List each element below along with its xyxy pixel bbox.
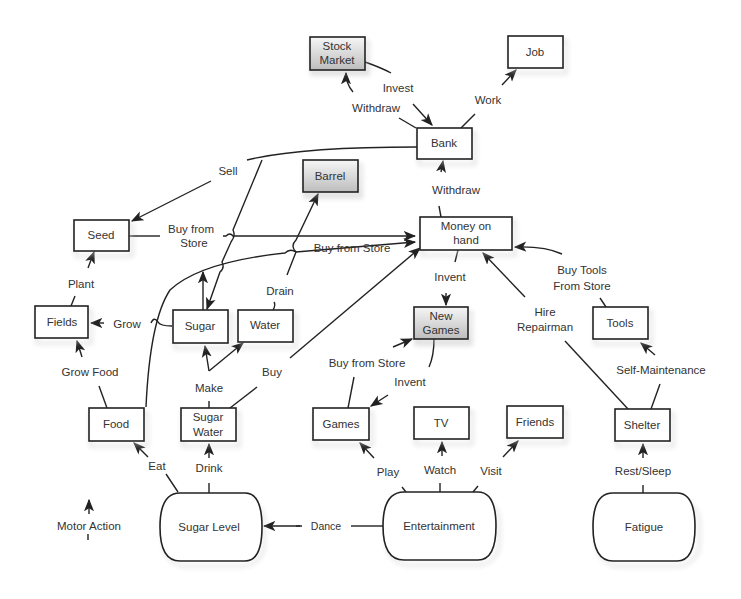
- node-barrel: Barrel: [303, 160, 361, 197]
- label-rest-sleep: Rest/Sleep: [615, 465, 671, 477]
- node-stock-market: Stock Market: [310, 37, 368, 74]
- label-dance: Dance: [311, 520, 342, 532]
- node-label: Fatigue: [625, 521, 663, 533]
- node-label: hand: [453, 234, 479, 246]
- node-label: Stock: [323, 40, 352, 52]
- node-water: Water: [238, 310, 296, 347]
- label-buy-from-store-mid: Buy from Store: [314, 242, 391, 254]
- node-fields: Fields: [35, 306, 91, 343]
- edge-sell-head: [132, 181, 211, 221]
- node-job: Job: [508, 36, 566, 73]
- node-label: Shelter: [624, 419, 661, 431]
- edge-buytools-head: [515, 247, 562, 254]
- node-shelter: Shelter: [615, 409, 673, 446]
- edge-drain: [287, 194, 318, 275]
- node-label: TV: [434, 417, 449, 429]
- edge-drain-tail: [273, 302, 275, 310]
- label-eat: Eat: [148, 460, 166, 472]
- edge-grow-tail: [151, 319, 172, 326]
- label-invent-games: Invent: [394, 376, 426, 388]
- node-entertainment: Entertainment: [383, 492, 499, 565]
- edge-work-tail: [461, 114, 475, 128]
- edge-invest: [413, 104, 432, 125]
- edge-make-sugar: [205, 346, 209, 371]
- node-label: Seed: [88, 229, 115, 241]
- label-work: Work: [475, 94, 502, 106]
- label-grow: Grow: [113, 318, 141, 330]
- node-label: Food: [103, 418, 129, 430]
- node-games: Games: [313, 408, 372, 445]
- edge-buytools-tail: [600, 298, 606, 307]
- label-watch: Watch: [424, 464, 456, 476]
- node-friends: Friends: [507, 406, 566, 443]
- label-buy-from-store-seed-2: Store: [180, 237, 208, 249]
- node-sugar-level: Sugar Level: [160, 493, 264, 566]
- node-fatigue: Fatigue: [593, 493, 699, 566]
- edge-sell-tail: [247, 147, 417, 160]
- label-drink: Drink: [196, 462, 223, 474]
- edge-seed-buy-head: [223, 234, 415, 236]
- node-sugar: Sugar: [173, 310, 231, 348]
- edge-bank-sugar: [207, 160, 262, 309]
- label-visit: Visit: [480, 465, 502, 477]
- label-drain: Drain: [266, 285, 293, 297]
- edge-withdraw-stock-tail: [399, 118, 416, 128]
- edge-plant-tail: [71, 296, 75, 306]
- node-seed: Seed: [74, 220, 132, 256]
- label-withdraw-stock: Withdraw: [352, 102, 401, 114]
- node-label: Job: [526, 46, 545, 58]
- node-label: Tools: [607, 317, 634, 329]
- label-buy-tools-1: Buy Tools: [557, 264, 607, 276]
- node-label: Water: [250, 319, 280, 331]
- label-hire-2: Repairman: [517, 321, 573, 333]
- edge-selfmaint-tail: [651, 384, 660, 409]
- edge-invent-games-head: [371, 395, 388, 406]
- edge-eat-tail: [166, 474, 178, 492]
- edge-buy-tail: [230, 387, 257, 408]
- node-label: New: [429, 310, 453, 322]
- label-invent-top: Invent: [434, 271, 466, 283]
- label-buy-from-store-seed-1: Buy from: [168, 223, 214, 235]
- node-label: Sugar: [185, 320, 216, 332]
- label-buy: Buy: [262, 366, 282, 378]
- node-label: Market: [319, 54, 355, 66]
- node-label: Entertainment: [403, 520, 475, 532]
- edge-visit-tail: [473, 486, 478, 492]
- node-label: Bank: [431, 137, 457, 149]
- node-sugar-water: Sugar Water: [181, 408, 239, 446]
- label-buy-from-store-games: Buy from Store: [329, 357, 406, 369]
- edge-games-store-tail: [348, 377, 354, 408]
- label-self-maintenance: Self-Maintenance: [616, 364, 706, 376]
- legend-motor-action: Motor Action: [57, 520, 121, 532]
- node-bank: Bank: [417, 128, 475, 164]
- label-sell: Sell: [218, 165, 237, 177]
- label-grow-food: Grow Food: [62, 366, 119, 378]
- node-label: Games: [422, 324, 459, 336]
- label-make: Make: [195, 382, 223, 394]
- label-withdraw-bank: Withdraw: [432, 184, 481, 196]
- node-label: Games: [322, 418, 359, 430]
- label-invest: Invest: [383, 82, 414, 94]
- node-tools: Tools: [593, 307, 651, 344]
- label-buy-tools-2: From Store: [553, 280, 611, 292]
- label-play: Play: [377, 466, 400, 478]
- edge-buy-head: [290, 248, 420, 358]
- node-label: Fields: [47, 316, 78, 328]
- node-label: Money on: [441, 220, 492, 232]
- label-plant: Plant: [68, 278, 95, 290]
- edge-games-store-head: [393, 339, 412, 347]
- node-tv: TV: [414, 407, 472, 444]
- edge-withdraw-stock: [346, 73, 353, 92]
- node-label: Friends: [516, 416, 555, 428]
- concept-diagram: Invest Withdraw Work Sell Withdraw Buy f…: [0, 0, 741, 599]
- edge-withdraw-bank-tail: [439, 206, 441, 217]
- edge-growfood-tail: [99, 386, 107, 408]
- node-new-games: New Games: [414, 307, 471, 344]
- node-food: Food: [89, 408, 147, 446]
- edge-invest-line1: [365, 62, 391, 73]
- node-label: Sugar Level: [178, 521, 239, 533]
- node-money-on-hand: Money on hand: [420, 217, 515, 255]
- label-hire-1: Hire: [534, 306, 555, 318]
- node-label: Sugar: [193, 411, 224, 423]
- node-label: Water: [193, 426, 223, 438]
